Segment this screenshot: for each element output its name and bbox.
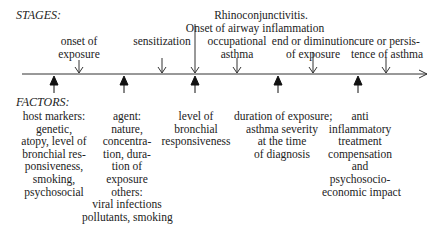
stage-end-of-exposure: end or diminutionof exposure xyxy=(270,35,356,60)
factor-arrow-icons xyxy=(50,76,362,93)
factor-agent: agent:nature,concentra-tion, dura-tion o… xyxy=(82,110,172,223)
stage-cure-or-persistence: cure or persis-tence of asthma xyxy=(351,35,423,60)
factor-host-markers: host markers:genetic,atopy, level ofbron… xyxy=(18,110,90,198)
factor-duration-severity: duration of exposure;asthma severityat t… xyxy=(234,110,330,160)
stage-sensitization: sensitization xyxy=(127,35,197,48)
stage-occupational-asthma: occupationalasthma xyxy=(202,35,272,60)
stage-rhinoconjunctivitis: Rhinoconjunctivitis.Onset of airway infl… xyxy=(135,9,335,34)
stage-onset-of-exposure: onset ofexposure xyxy=(49,35,109,60)
factor-bronchial-responsiveness: level ofbronchialresponsiveness xyxy=(160,110,232,148)
factor-treatment-compensation: antiinflammatorytreatmentcompensationand… xyxy=(322,110,398,198)
